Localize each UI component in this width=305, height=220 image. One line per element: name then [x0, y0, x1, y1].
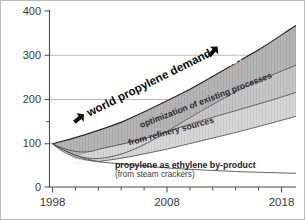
ytick-label-200: 200: [23, 93, 41, 105]
area-chart: 400 300 200 100 0 1998 2008 2018 world p…: [1, 1, 305, 220]
x-axis-ticks: [53, 187, 282, 193]
xtick-label-2008: 2008: [154, 196, 180, 208]
ytick-label-100: 100: [23, 137, 41, 149]
chart-figure: 400 300 200 100 0 1998 2008 2018 world p…: [0, 0, 305, 220]
byproduct-label-line1: propylene as ethylene by-product: [115, 160, 256, 170]
xtick-label-1998: 1998: [40, 196, 66, 208]
y-axis-ticks: [45, 11, 50, 187]
ytick-label-0: 0: [35, 181, 41, 193]
ytick-label-400: 400: [23, 5, 41, 17]
byproduct-label-line2: (from steam crackers): [115, 170, 195, 179]
xtick-label-2018: 2018: [269, 196, 295, 208]
ytick-label-300: 300: [23, 49, 41, 61]
